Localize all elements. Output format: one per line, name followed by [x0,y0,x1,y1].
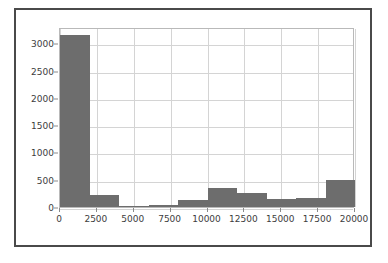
histogram-bar [267,199,297,207]
histogram-bar [149,205,179,207]
y-tick-label: 1500 [31,121,54,131]
x-tick-mark [354,208,355,212]
y-tick-label: 2000 [31,94,54,104]
x-tick-label: 15000 [266,214,295,224]
x-tick-mark [243,208,244,212]
y-tick-label: 1000 [31,148,54,158]
x-tick-mark [207,208,208,212]
y-tick-mark [54,44,58,45]
y-tick-mark [54,153,58,154]
y-axis: 050010001500200025003000 [16,28,54,208]
y-tick-mark [54,126,58,127]
histogram-bar [178,200,208,207]
histogram-bar [208,188,238,207]
y-tick-mark [54,71,58,72]
x-tick-label: 5000 [121,214,144,224]
x-tick-mark [133,208,134,212]
x-tick-mark [59,208,60,212]
histogram-bar [326,180,356,207]
histogram-bar [119,206,149,207]
y-tick-mark [54,180,58,181]
histogram-bars [60,29,353,207]
histogram-bar [296,198,326,207]
y-tick-label: 3000 [31,39,54,49]
x-tick-label: 7500 [158,214,181,224]
x-tick-mark [96,208,97,212]
figure-frame: 050010001500200025003000 025005000750010… [14,8,372,247]
plot-area [59,28,354,208]
histogram-bar [90,195,120,207]
histogram-bar [237,193,267,207]
x-axis: 02500500075001000012500150001750020000 [59,208,354,236]
x-tick-mark [280,208,281,212]
y-tick-mark [54,208,58,209]
gridline-vertical [355,29,356,207]
x-tick-mark [170,208,171,212]
x-tick-label: 17500 [303,214,332,224]
y-tick-label: 500 [37,176,54,186]
x-tick-label: 0 [56,214,62,224]
x-tick-label: 12500 [229,214,258,224]
y-tick-mark [54,98,58,99]
histogram-bar [60,35,90,207]
x-tick-mark [317,208,318,212]
x-tick-label: 20000 [340,214,369,224]
x-tick-label: 10000 [192,214,221,224]
x-tick-label: 2500 [84,214,107,224]
y-tick-label: 2500 [31,67,54,77]
